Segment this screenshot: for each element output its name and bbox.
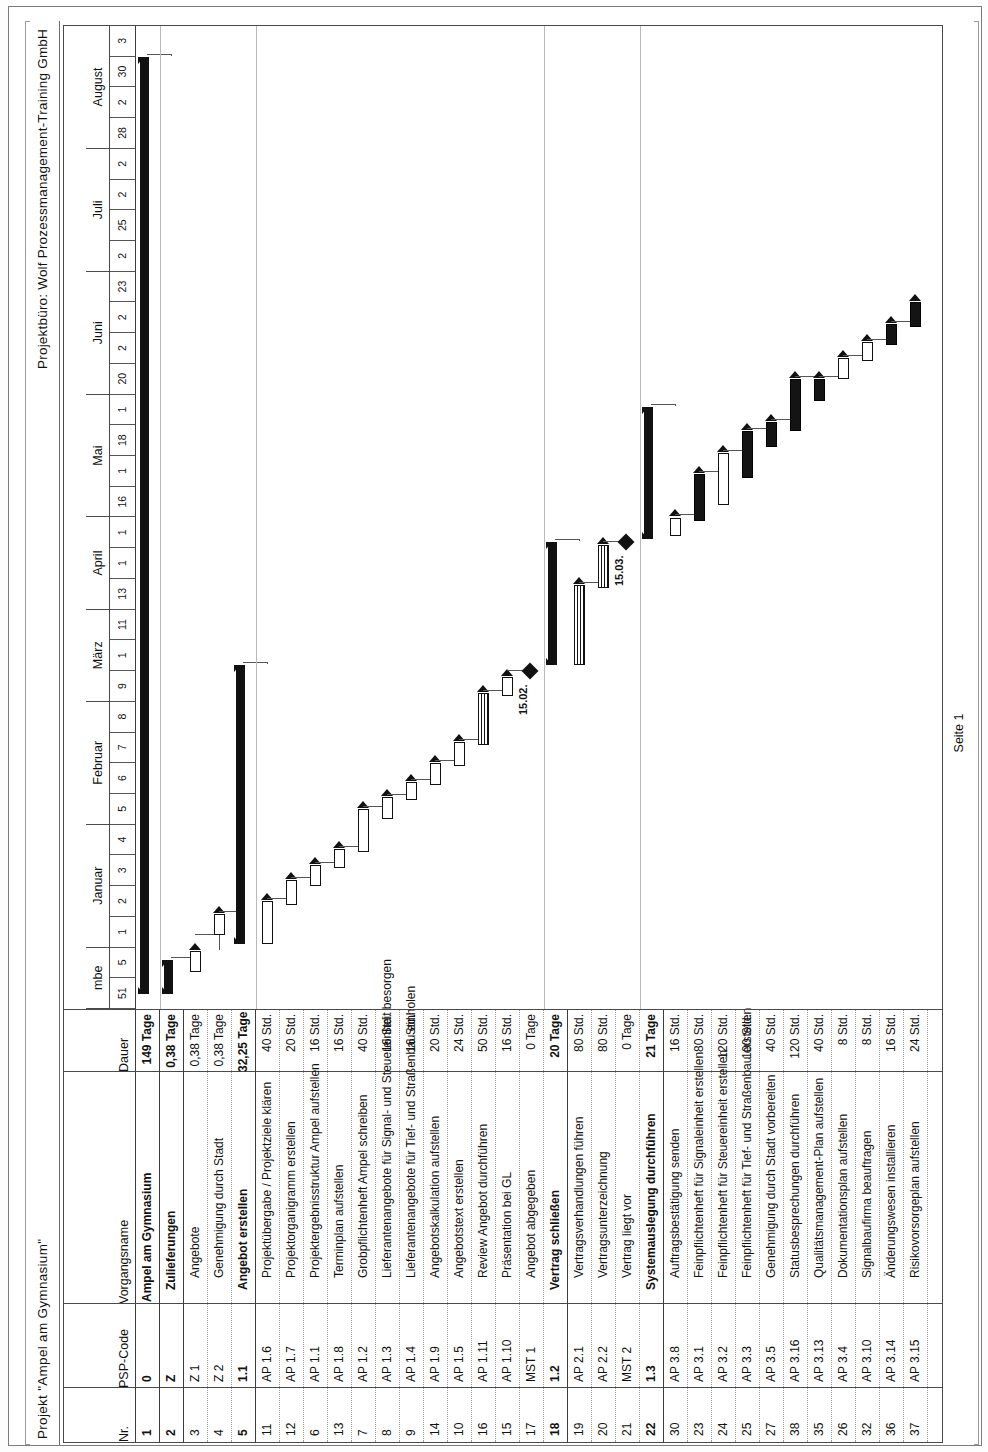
cell-psp-code: AP 3.5: [764, 1302, 779, 1386]
cell-duration: 16 Std.: [332, 1008, 347, 1072]
table-row[interactable]: 51.1Angebot erstellen32,25 Tage: [232, 1010, 256, 1442]
cell-psp-code: MST 1: [524, 1302, 539, 1386]
gantt-row: [880, 26, 904, 1009]
timeline-week-13: 13: [110, 579, 135, 610]
cell-duration: 21 Tage: [644, 1008, 659, 1072]
timeline-week-27: 2: [110, 149, 135, 180]
table-row[interactable]: 13AP 1.8Terminplan aufstellen16 Std.: [328, 1010, 352, 1442]
table-row[interactable]: 23AP 3.1Feinpflichtenheft für Signaleinh…: [688, 1010, 712, 1442]
table-row[interactable]: 6AP 1.1Projektergebnisstruktur Ampel auf…: [304, 1010, 328, 1442]
table-row[interactable]: 38AP 3.16Statusbesprechungen durchführen…: [784, 1010, 808, 1442]
table-row[interactable]: 10AP 1.5Angebotstext erstellen24 Std.: [448, 1010, 472, 1442]
table-row[interactable]: 19AP 2.1Vertragsverhandlungen führen80 S…: [568, 1010, 592, 1442]
table-row[interactable]: 10Ampel am Gymnasium149 Tage: [136, 1010, 160, 1442]
table-row[interactable]: 2ZZulieferungen0,38 Tage: [160, 1010, 184, 1442]
table-row[interactable]: 36AP 3.14Änderungswesen installieren16 S…: [880, 1010, 904, 1442]
timeline-week-6: 5: [110, 794, 135, 825]
critical-task-bar[interactable]: [886, 324, 897, 346]
cell-duration: 0,38 Tage: [164, 1008, 179, 1072]
task-bar[interactable]: [574, 585, 585, 665]
gantt-row: [568, 26, 592, 1009]
table-row[interactable]: 16AP 1.11Review Angebot durchführen50 St…: [472, 1010, 496, 1442]
table-row[interactable]: 35AP 3.13Qualitätsmanagement-Plan aufste…: [808, 1010, 832, 1442]
table-row[interactable]: 7AP 1.2Grobpflichtenheft Ampel schreiben…: [352, 1010, 376, 1442]
table-row[interactable]: 14AP 1.9Angebotskalkulation aufstellen20…: [424, 1010, 448, 1442]
critical-task-bar[interactable]: [694, 475, 705, 521]
task-bar[interactable]: [478, 693, 489, 745]
gantt-row-separator: [928, 26, 929, 1009]
critical-task-bar[interactable]: [766, 422, 777, 447]
table-row[interactable]: 15AP 1.10Präsentation bei GL16 Std.: [496, 1010, 520, 1442]
cell-task-name: Lieferantenangebote für Tief- und Straße…: [404, 1050, 419, 1302]
table-row[interactable]: 181.2Vertrag schließen20 Tage: [544, 1010, 568, 1442]
summary-bar[interactable]: [236, 665, 245, 945]
gantt-row-separator: [760, 26, 761, 1009]
cell-task-name: Lieferantenangebote für Signal- und Steu…: [380, 1050, 395, 1302]
critical-task-bar[interactable]: [910, 302, 921, 327]
table-row[interactable]: 20AP 2.2Vertragsunterzeichnung80 Std.: [592, 1010, 616, 1442]
milestone-diamond[interactable]: [618, 534, 635, 551]
cell-nr: 38: [788, 1386, 803, 1442]
task-bar[interactable]: [406, 782, 417, 800]
cell-psp-code: 1.2: [548, 1302, 563, 1386]
task-bar[interactable]: [358, 809, 369, 852]
summary-bar[interactable]: [548, 542, 557, 665]
task-bar[interactable]: [310, 865, 321, 887]
table-row[interactable]: 24AP 3.2Feinpflichtenheft für Steuereinh…: [712, 1010, 736, 1442]
task-bar[interactable]: [454, 742, 465, 767]
table-row[interactable]: 3Z 1Angebote0,38 Tage: [184, 1010, 208, 1442]
task-bar[interactable]: [334, 849, 345, 867]
timeline-week-12: 11: [110, 610, 135, 641]
summary-bar[interactable]: [140, 57, 149, 994]
table-row[interactable]: 32AP 3.10Signalbaufirma beauftragen8 Std…: [856, 1010, 880, 1442]
task-bar[interactable]: [838, 358, 849, 380]
timeline-month-0: mbe: [86, 948, 110, 1009]
table-row[interactable]: 221.3Systemauslegung durchführen21 Tage: [640, 1010, 664, 1442]
task-bar[interactable]: [190, 951, 201, 973]
task-bar[interactable]: [214, 914, 225, 936]
cell-nr: 14: [428, 1386, 443, 1442]
task-bar[interactable]: [718, 453, 729, 505]
timeline-week-22: 2: [110, 302, 135, 333]
timeline-month-2: Februar: [86, 702, 110, 825]
summary-bar[interactable]: [644, 407, 653, 539]
task-bar[interactable]: [598, 545, 609, 588]
task-bar[interactable]: [670, 518, 681, 536]
table-row[interactable]: 26AP 3.4Dokumentationsplan aufstellen8 S…: [832, 1010, 856, 1442]
cell-psp-code: AP 1.10: [500, 1302, 515, 1386]
table-row[interactable]: 12AP 1.7Projektorganigramm erstellen20 S…: [280, 1010, 304, 1442]
table-row[interactable]: 9AP 1.4Lieferantenangebote für Tief- und…: [400, 1010, 424, 1442]
summary-bar[interactable]: [164, 960, 173, 994]
table-row[interactable]: 37AP 3.15Risikovorsorgeplan aufstellen24…: [904, 1010, 928, 1442]
table-row[interactable]: 11AP 1.6Projektübergabe / Projektziele k…: [256, 1010, 280, 1442]
cell-duration: 8 Std.: [836, 1008, 851, 1072]
table-row[interactable]: 4Z 2Genehmigung durch Stadt0,38 Tage: [208, 1010, 232, 1442]
cell-duration: 100 Std.: [740, 1008, 755, 1072]
table-row[interactable]: 21MST 2Vertrag liegt vor0 Tage: [616, 1010, 640, 1442]
table-row[interactable]: 27AP 3.5Genehmigung durch Stadt vorberei…: [760, 1010, 784, 1442]
task-bar[interactable]: [430, 763, 441, 785]
milestone-diamond[interactable]: [522, 663, 539, 680]
table-row[interactable]: 17MST 1Angebot abgegeben0 Tage: [520, 1010, 544, 1442]
table-row[interactable]: 30AP 3.8Auftragsbestätigung senden16 Std…: [664, 1010, 688, 1442]
gantt-row: [736, 26, 760, 1009]
task-bar[interactable]: [286, 880, 297, 905]
critical-task-bar[interactable]: [790, 379, 801, 431]
task-bar[interactable]: [382, 797, 393, 819]
table-row[interactable]: 8AP 1.3Lieferantenangebote für Signal- u…: [376, 1010, 400, 1442]
task-bar[interactable]: [502, 677, 513, 695]
critical-task-bar[interactable]: [814, 379, 825, 401]
gantt-row-separator: [184, 26, 185, 1009]
task-bar[interactable]: [262, 902, 273, 945]
timeline-week-30: 30: [110, 57, 135, 88]
gantt-row: 15.03.: [616, 26, 640, 1009]
timeline-month-5: Mai: [86, 395, 110, 518]
task-bar[interactable]: [862, 342, 873, 360]
timeline-week-18: 18: [110, 425, 135, 456]
cell-task-name: Änderungswesen installieren: [884, 1050, 899, 1302]
cell-task-name: Dokumentationsplan aufstellen: [836, 1050, 851, 1302]
table-row[interactable]: 25AP 3.3Feinpflichtenheft für Tief- und …: [736, 1010, 760, 1442]
timeline-week-17: 1: [110, 456, 135, 487]
gantt-row: [904, 26, 928, 1009]
critical-task-bar[interactable]: [742, 432, 753, 478]
